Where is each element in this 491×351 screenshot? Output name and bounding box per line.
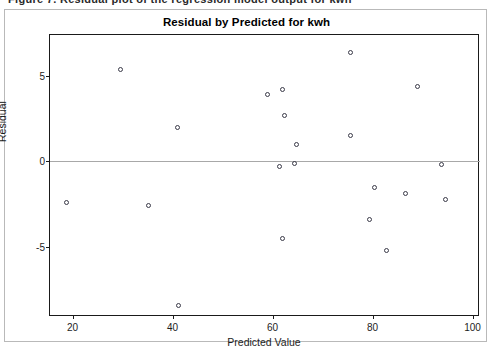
plot-area: 50-5 20406080100 [49, 34, 479, 316]
x-tick-mark [373, 315, 374, 319]
scatter-point [277, 164, 282, 169]
scatter-point [118, 67, 123, 72]
x-tick-label: 40 [167, 322, 178, 333]
top-cutoff-strip: Figure 7. Residual plot of the regressio… [0, 0, 491, 9]
scatter-point [384, 248, 389, 253]
x-tick-mark [73, 315, 74, 319]
scatter-point [367, 217, 372, 222]
scatter-point [146, 203, 151, 208]
scatter-point [280, 87, 285, 92]
x-tick-mark [473, 315, 474, 319]
scatter-point [64, 200, 69, 205]
scatter-point [265, 92, 270, 97]
x-tick-label: 100 [464, 322, 481, 333]
y-tick-mark [46, 76, 50, 77]
y-axis-label: Residual [0, 101, 8, 142]
scatter-point [372, 185, 377, 190]
y-tick-label: 5 [39, 71, 45, 82]
scatter-point [175, 125, 180, 130]
x-axis-label: Predicted Value [49, 336, 479, 348]
scatter-point [348, 133, 353, 138]
chart-figure: Residual by Predicted for kwh 50-5 20406… [4, 9, 487, 342]
y-tick-mark [46, 161, 50, 162]
scatter-point [292, 161, 297, 166]
scatter-point [415, 84, 420, 89]
scatter-point [282, 113, 287, 118]
scatter-point [439, 162, 444, 167]
x-tick-mark [173, 315, 174, 319]
x-tick-label: 20 [67, 322, 78, 333]
scatter-point [280, 236, 285, 241]
y-tick-label: -5 [36, 241, 45, 252]
scatter-point [443, 197, 448, 202]
top-cutoff-text: Figure 7. Residual plot of the regressio… [8, 0, 352, 5]
scatter-point [294, 142, 299, 147]
x-tick-mark [273, 315, 274, 319]
scatter-point [348, 50, 353, 55]
chart-title: Residual by Predicted for kwh [5, 16, 488, 28]
x-tick-label: 80 [367, 322, 378, 333]
y-tick-mark [46, 247, 50, 248]
zero-reference-line [50, 161, 480, 162]
x-tick-label: 60 [267, 322, 278, 333]
y-tick-label: 0 [39, 156, 45, 167]
scatter-point [403, 191, 408, 196]
scatter-point [176, 303, 181, 308]
